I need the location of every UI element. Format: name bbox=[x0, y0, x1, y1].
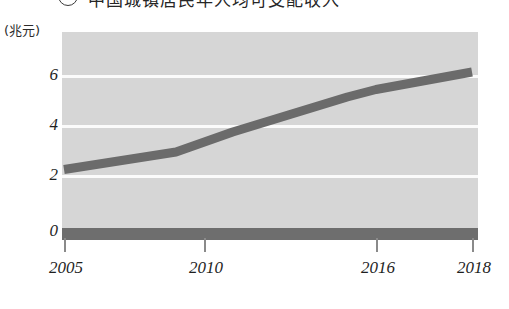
axis-baseline bbox=[62, 228, 478, 240]
x-tick-2005: 2005 bbox=[49, 258, 83, 278]
y-tick-6: 6 bbox=[4, 65, 58, 85]
x-tick-2010: 2010 bbox=[189, 258, 223, 278]
x-tick-mark-2005 bbox=[64, 238, 66, 252]
x-tick-mark-2018 bbox=[472, 238, 474, 252]
x-tick-2018: 2018 bbox=[457, 258, 491, 278]
page-title: 中国城镇居民年人均可支配收入 bbox=[88, 0, 340, 11]
x-tick-mark-2010 bbox=[204, 238, 206, 252]
figure-number-badge: 3 bbox=[58, 0, 78, 6]
x-tick-mark-2016 bbox=[376, 238, 378, 252]
figure-title-strip: 3 中国城镇居民年人均可支配收入 bbox=[0, 0, 509, 12]
y-tick-4: 4 bbox=[4, 115, 58, 135]
y-tick-2: 2 bbox=[4, 165, 58, 185]
data-series-line bbox=[62, 32, 478, 228]
y-tick-0: 0 bbox=[4, 221, 58, 241]
x-tick-2016: 2016 bbox=[361, 258, 395, 278]
chart-figure: 3 中国城镇居民年人均可支配收入 (兆元) 6 4 2 0 2005 2010 … bbox=[0, 0, 509, 309]
